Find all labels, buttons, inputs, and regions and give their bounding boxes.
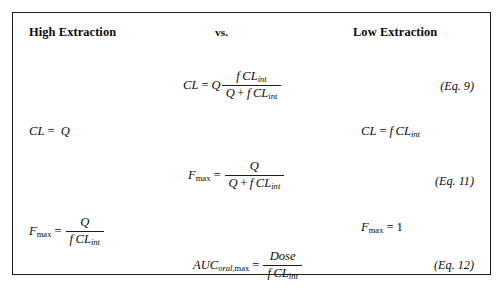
fmax-low-lhs-subscript: max <box>369 225 384 235</box>
equation-number-11: (Eq. 11) <box>435 174 474 189</box>
eq9-num-f: f <box>236 69 240 83</box>
column-header-low-extraction: Low Extraction <box>353 25 437 40</box>
eq9-num-cl: CL <box>242 69 257 83</box>
cl-high-lhs: CL <box>29 124 44 138</box>
eq9-den-subscript: int <box>268 91 277 101</box>
column-header-vs: vs. <box>215 26 228 38</box>
column-header-row: High Extraction vs. Low Extraction <box>13 25 490 47</box>
equation-fmax-high-extraction: Fmax= Q f CLint <box>29 217 105 246</box>
eq9-denominator: Q + f CLint <box>222 86 282 100</box>
fmax-high-num-q: Q <box>80 215 89 229</box>
eq12-numerator: Dose <box>263 250 301 265</box>
eq9-den-plus: + <box>237 86 244 100</box>
eq12-fraction: Dose f CLint <box>263 250 301 279</box>
eq9-den-f: f <box>247 86 251 100</box>
eq9-den-q: Q <box>226 86 235 100</box>
cl-low-rhs-f: f <box>390 124 394 138</box>
eq11-relation: = <box>210 168 223 182</box>
eq11-lhs-f: F <box>188 168 196 182</box>
cl-low-lhs: CL <box>361 124 376 138</box>
eq12-denominator: f CLint <box>263 266 301 280</box>
fmax-low-relation: = <box>383 220 396 234</box>
eq11-denominator: Q + f CLint <box>225 176 285 190</box>
eq11-lhs-subscript: max <box>196 173 211 183</box>
equation-number-12: (Eq. 12) <box>434 258 474 273</box>
equation-11: Fmax= Q Q + f CLint <box>188 161 285 190</box>
eq11-numerator: Q <box>225 160 285 175</box>
eq11-den-f: f <box>250 176 254 190</box>
equation-figure-box: High Extraction vs. Low Extraction CL=Q … <box>12 12 491 275</box>
eq11-den-cl: CL <box>256 176 271 190</box>
eq9-factor: Q <box>212 78 221 92</box>
fmax-high-lhs-subscript: max <box>37 229 52 239</box>
eq12-relation: = <box>249 258 262 272</box>
eq9-numerator: f CLint <box>222 70 282 85</box>
equation-cl-high-extraction: CL= Q <box>29 125 70 138</box>
equation-9: CL=Q f CLint Q + f CLint <box>183 71 282 100</box>
cl-high-rhs: Q <box>61 124 70 138</box>
cl-high-relation: = <box>44 124 57 138</box>
fmax-high-fraction: Q f CLint <box>66 216 104 245</box>
eq12-lhs-auc: AUC <box>193 258 218 272</box>
eq11-num-q: Q <box>250 159 259 173</box>
eq12-sub-oral: oral <box>218 263 232 273</box>
eq12-den-subscript: int <box>289 271 298 281</box>
fmax-low-rhs: 1 <box>397 220 403 234</box>
fmax-high-den-cl: CL <box>76 232 91 246</box>
fmax-high-denominator: f CLint <box>66 232 104 246</box>
fmax-high-den-f: f <box>70 232 74 246</box>
cl-low-rhs-cl: CL <box>396 124 411 138</box>
eq12-num-dose: Dose <box>270 249 296 263</box>
equation-cl-low-extraction: CL=f CLint <box>361 125 420 138</box>
eq9-fraction: f CLint Q + f CLint <box>222 70 282 99</box>
eq11-den-plus: + <box>240 176 247 190</box>
eq9-num-subscript: int <box>258 75 267 85</box>
fmax-high-numerator: Q <box>66 216 104 231</box>
equation-fmax-low-extraction: Fmax=1 <box>361 221 403 234</box>
eq12-lhs-subscript: oral,max <box>218 263 249 273</box>
eq12-den-f: f <box>267 266 271 280</box>
eq11-den-q: Q <box>229 176 238 190</box>
equation-number-9: (Eq. 9) <box>440 79 474 94</box>
eq11-fraction: Q Q + f CLint <box>225 160 285 189</box>
eq11-den-subscript: int <box>271 181 280 191</box>
cl-low-rhs-subscript: int <box>411 129 420 139</box>
eq9-relation: = <box>198 78 211 92</box>
eq9-lhs: CL <box>183 78 198 92</box>
eq9-den-cl: CL <box>253 86 268 100</box>
fmax-high-relation: = <box>51 224 64 238</box>
eq12-den-cl: CL <box>273 266 288 280</box>
fmax-low-lhs-f: F <box>361 220 369 234</box>
fmax-high-lhs-f: F <box>29 224 37 238</box>
fmax-high-den-subscript: int <box>91 237 100 247</box>
equation-12: AUCoral,max= Dose f CLint <box>193 251 303 280</box>
eq12-sub-max: max <box>235 263 250 273</box>
cl-low-relation: = <box>376 124 389 138</box>
column-header-high-extraction: High Extraction <box>29 25 116 40</box>
